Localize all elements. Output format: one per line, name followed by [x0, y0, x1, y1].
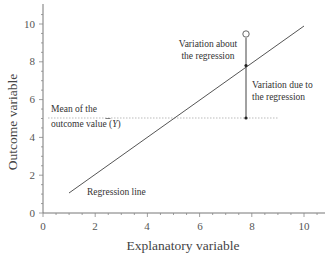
svg-text:Mean of the: Mean of the	[51, 104, 97, 114]
svg-text:the regression: the regression	[252, 92, 305, 102]
annotation-regression-line: Regression line	[87, 187, 146, 197]
y-tick-10: 10	[24, 18, 36, 30]
mean-value-marker	[244, 116, 247, 119]
annotation-variation-due: Variation due to the regression	[252, 80, 313, 102]
fitted-value-marker	[244, 64, 247, 67]
x-tick-0: 0	[40, 220, 46, 232]
x-tick-8: 8	[249, 220, 255, 232]
x-tick-4: 4	[144, 220, 150, 232]
svg-text:Variation due to: Variation due to	[252, 80, 313, 90]
y-tick-2: 2	[30, 169, 36, 181]
y-tick-4: 4	[30, 131, 36, 143]
y-tick-6: 6	[30, 93, 36, 105]
svg-text:outcome value (Y): outcome value (Y)	[51, 119, 121, 130]
x-tick-2: 2	[92, 220, 98, 232]
y-tick-labels: 0 2 4 6 8 10	[24, 18, 36, 219]
x-axis	[43, 213, 325, 217]
x-tick-labels: 0 2 4 6 8 10	[40, 220, 310, 232]
observed-point-marker	[243, 31, 249, 37]
svg-text:Variation about: Variation about	[179, 39, 238, 49]
x-axis-title: Explanatory variable	[127, 238, 240, 253]
x-tick-10: 10	[299, 220, 311, 232]
y-axis	[39, 4, 43, 213]
chart-canvas: 0 2 4 6 8 10 0 2 4 6 8 10 Explanatory va…	[0, 0, 334, 259]
y-tick-0: 0	[30, 207, 36, 219]
annotation-mean: Mean of the outcome value (Y)	[51, 104, 121, 130]
svg-text:Regression line: Regression line	[87, 187, 146, 197]
annotation-variation-about: Variation about the regression	[179, 39, 238, 61]
y-axis-title: Outcome variable	[5, 74, 20, 170]
x-tick-6: 6	[197, 220, 203, 232]
svg-text:the regression: the regression	[181, 51, 234, 61]
y-tick-8: 8	[30, 55, 36, 67]
